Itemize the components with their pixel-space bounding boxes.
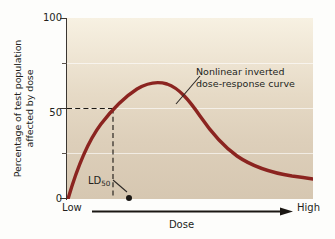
x-axis-label: Dose xyxy=(0,219,335,230)
plot-area xyxy=(67,18,313,199)
ld50-label-text: LD xyxy=(88,175,101,186)
curve-svg-layer xyxy=(67,18,313,199)
y-tick-label-100: 100 xyxy=(32,13,62,23)
curve-annotation-line-2: dose-response curve xyxy=(196,78,295,90)
ld50-leader-line xyxy=(112,178,130,194)
x-axis-arrow-icon xyxy=(92,207,294,216)
curve-annotation: Nonlinear inverted dose-response curve xyxy=(196,66,295,89)
y-tick-mark-50 xyxy=(60,108,67,109)
x-axis-high-label: High xyxy=(297,202,320,214)
x-axis-low-label: Low xyxy=(62,202,82,214)
y-axis-label-line-1: Percentage of test population xyxy=(12,19,24,199)
curve-annotation-line-1: Nonlinear inverted xyxy=(196,66,295,78)
y-tick-mark-100 xyxy=(60,18,67,19)
x-axis-row: Low High xyxy=(0,200,335,218)
ld50-label-subscript: 50 xyxy=(101,179,110,188)
ld50-label: LD50 xyxy=(88,175,110,187)
x-axis-label-text: Dose xyxy=(169,219,194,230)
y-tick-label-50: 50 xyxy=(32,108,62,118)
dose-response-chart-figure: Percentage of test population affected b… xyxy=(0,0,335,239)
